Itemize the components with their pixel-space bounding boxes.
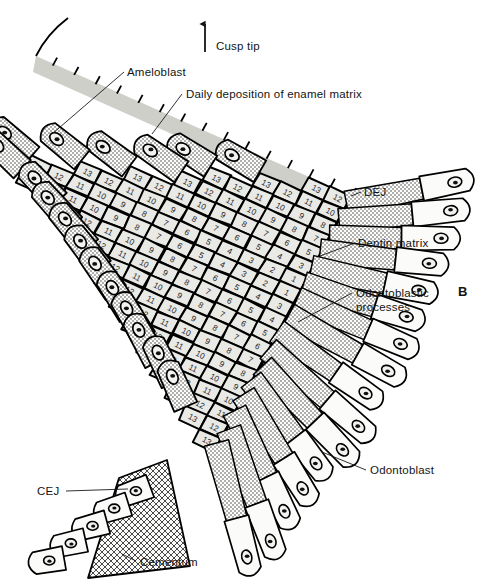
odontoblast-nucleolus (282, 509, 287, 513)
enamel-rod-tick (331, 179, 335, 187)
label-dentin-matrix: Dentin matrix (358, 237, 428, 249)
ameloblast-nucleolus (136, 328, 141, 332)
odontoblast-nucleolus (313, 462, 318, 466)
enamel-rod-tick (267, 151, 271, 159)
ameloblast-nucleolus (100, 145, 105, 149)
ameloblast-nucleolus (55, 137, 60, 141)
odontoblast-cell (411, 198, 470, 226)
figure-root: 1312131211101312111098131211109871312111… (0, 0, 487, 586)
ameloblast-nucleolus (156, 351, 161, 355)
odontoblast-nucleolus (398, 342, 403, 346)
odontoblast-nucleolus (355, 424, 360, 428)
cej-cell-nucleolus (47, 560, 51, 563)
odontoblast-nucleolus (448, 208, 453, 212)
odontoblast-nucleolus (453, 181, 458, 185)
enamel-rod-tick (117, 86, 121, 94)
histology-diagram: 1312131211101312111098131211109871312111… (0, 0, 487, 586)
cusp-tip-label: Cusp tip (216, 40, 260, 52)
odontoblast-nucleolus (439, 237, 444, 241)
label-cej: CEJ (37, 485, 59, 497)
odontoblast-nucleolus (245, 554, 250, 558)
label-odontoblastic-processes-line1: Odontoblastic (356, 287, 429, 299)
cej-cell-nucleolus (134, 489, 138, 492)
enamel-rod-tick (96, 76, 100, 84)
enamel-rod-tick (181, 114, 185, 122)
enamel-rod-tick (138, 95, 142, 103)
label-cementum: Cementum (140, 556, 198, 568)
cej-cell-nucleolus (91, 524, 95, 527)
cusp-outline (36, 18, 68, 56)
label-daily-deposition: Daily deposition of enamel matrix (186, 88, 362, 100)
enamel-rod-tick (288, 160, 292, 168)
odontoblast-cell (419, 169, 474, 201)
ameloblast-nucleolus (124, 306, 129, 310)
cej-cell-nucleolus (112, 506, 116, 509)
enamel-rod-tick (202, 123, 206, 131)
cej-cell-nucleolus (69, 542, 73, 545)
enamel-rod-tick (245, 142, 249, 150)
enamel-rod-tick (74, 67, 78, 75)
enamel-rod-tick (224, 132, 228, 140)
label-ameloblast: Ameloblast (127, 66, 186, 78)
ameloblast-nucleolus (92, 262, 97, 266)
enamel-rod-tick (160, 104, 164, 112)
odontoblast-nucleolus (340, 448, 345, 452)
panel-label-b: B (458, 284, 467, 299)
ameloblast-nucleolus (63, 216, 68, 220)
label-dej: DEJ (364, 186, 386, 198)
label-odontoblastic-processes-line2: processes (356, 301, 410, 313)
odontoblast-nucleolus (385, 369, 390, 373)
odontoblast-nucleolus (405, 315, 410, 319)
ameloblast-nucleolus (229, 153, 234, 157)
odontoblast-cell (394, 247, 448, 276)
label-odontoblast: Odontoblast (370, 464, 435, 476)
odontoblast-nucleolus (364, 392, 369, 396)
ameloblast-nucleolus (170, 374, 175, 378)
ameloblast-nucleolus (45, 196, 50, 200)
ameloblast-nucleolus (109, 285, 114, 289)
ameloblast-nucleolus (148, 148, 153, 152)
odontoblast-nucleolus (300, 488, 305, 492)
odontoblast-nucleolus (268, 540, 273, 544)
enamel-rod-tick (309, 169, 313, 177)
ameloblast-nucleolus (180, 147, 185, 151)
odontoblast-nucleolus (426, 262, 431, 266)
ameloblast-nucleolus (31, 177, 36, 181)
ameloblast-nucleolus (78, 239, 83, 243)
